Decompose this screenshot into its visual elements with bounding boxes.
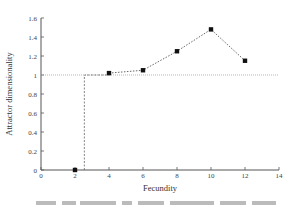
x-tick-label: 2 [73,172,77,180]
data-series [73,27,247,172]
tick-labels: 0246810121400.20.40.60.811.21.41.6 [28,15,283,181]
x-axis-label: Fecundity [143,183,178,193]
x-tick-label: 4 [107,172,111,180]
x-tick-label: 6 [141,172,145,180]
y-tick-label: 1 [34,72,38,80]
x-tick-label: 0 [39,172,43,180]
figure-caption-cutoff [0,199,296,206]
x-tick-label: 14 [276,172,284,180]
data-point-marker [243,59,247,63]
data-point-marker [209,27,213,31]
y-axis-label: Attractor dimensionality [4,52,14,136]
y-tick-label: 1.2 [28,53,37,61]
chart: 0246810121400.20.40.60.811.21.41.6 Fecun… [0,0,296,206]
threshold-step-line [84,75,109,170]
data-point-marker [175,49,179,53]
x-tick-label: 8 [175,172,179,180]
annotations [41,75,279,170]
y-tick-label: 0.4 [28,129,37,137]
y-tick-label: 0.8 [28,91,37,99]
x-tick-label: 10 [208,172,216,180]
axes [41,18,279,170]
y-tick-label: 0.6 [28,110,37,118]
y-tick-label: 1.6 [28,15,37,23]
y-tick-label: 0.2 [28,148,37,156]
y-tick-label: 0 [34,167,38,175]
y-tick-label: 1.4 [28,34,37,42]
data-point-marker [107,71,111,75]
data-point-marker [141,68,145,72]
x-tick-label: 12 [242,172,250,180]
